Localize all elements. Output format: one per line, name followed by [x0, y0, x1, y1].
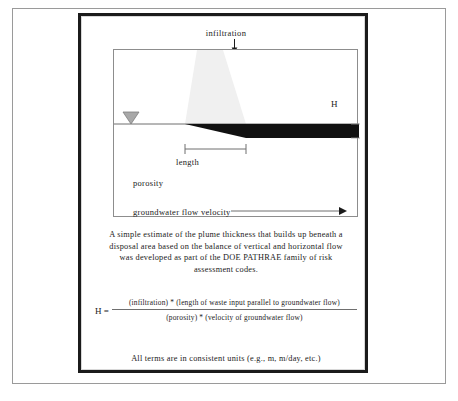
- equation-fraction: (infiltration) * (length of waste input …: [112, 297, 357, 323]
- description-line-3: was developed as part of the DOE PATHRAE…: [97, 252, 355, 264]
- plume-thickness-label: H: [331, 99, 338, 109]
- description-line-4: assessment codes.: [97, 264, 355, 276]
- diagram-box: length porosity groundwater flow velocit…: [113, 49, 358, 217]
- infiltration-label: infiltration: [81, 28, 371, 38]
- water-table-marker-icon: [123, 112, 139, 124]
- equation-denominator: (porosity) * (velocity of groundwater fl…: [112, 311, 357, 323]
- porosity-label: porosity: [133, 178, 163, 188]
- diagram-graphics: [113, 49, 360, 219]
- equation-fraction-bar: [112, 309, 357, 310]
- groundwater-flow-arrowhead-icon: [339, 207, 347, 215]
- saturated-plume-wedge: [185, 124, 359, 138]
- description-line-1: A simple estimate of the plume thickness…: [97, 229, 355, 241]
- description-paragraph: A simple estimate of the plume thickness…: [97, 229, 355, 275]
- length-label: length: [176, 157, 199, 167]
- thickness-equation: H = (infiltration) * (length of waste in…: [95, 297, 357, 323]
- groundwater-flow-velocity-label: groundwater flow velocity: [133, 207, 231, 217]
- equation-left-hand-side: H =: [95, 305, 112, 316]
- infiltration-plume-shape: [185, 50, 246, 124]
- units-note: All terms are in consistent units (e.g.,…: [97, 354, 355, 363]
- equation-numerator: (infiltration) * (length of waste input …: [112, 297, 357, 308]
- slide-frame: infiltration length: [78, 13, 368, 373]
- description-line-2: disposal area based on the balance of ve…: [97, 241, 355, 253]
